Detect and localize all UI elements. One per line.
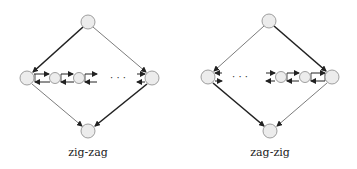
node-top <box>81 15 95 29</box>
edge-right-bottom <box>95 84 147 126</box>
edge-left-bottom <box>32 84 82 126</box>
node-chain <box>74 73 85 84</box>
edge-top-right <box>93 27 146 72</box>
edge-top-left <box>214 26 264 71</box>
node-bottom <box>81 124 95 138</box>
edge-top-left <box>33 27 83 72</box>
ellipsis: · · · <box>110 72 126 83</box>
edge-top-right <box>274 26 326 71</box>
edge-right-bottom <box>277 83 327 126</box>
edge-left-bottom <box>213 83 264 126</box>
zag-zig-diagram: · · · <box>201 14 339 138</box>
node-chain <box>276 72 287 83</box>
node-bottom <box>263 124 277 138</box>
node-left <box>201 70 215 84</box>
node-right <box>325 70 339 84</box>
node-top <box>262 14 276 28</box>
zig-zag-diagram: · · · <box>20 15 159 138</box>
zag-zig-label: zag-zig <box>250 146 289 159</box>
node-right <box>145 71 159 85</box>
diagram-canvas: · · · · · · <box>0 0 357 169</box>
node-left <box>20 71 34 85</box>
zig-zag-label: zig-zag <box>68 146 107 159</box>
node-chain <box>300 72 311 83</box>
ellipsis: · · · <box>232 71 248 82</box>
node-chain <box>50 73 61 84</box>
